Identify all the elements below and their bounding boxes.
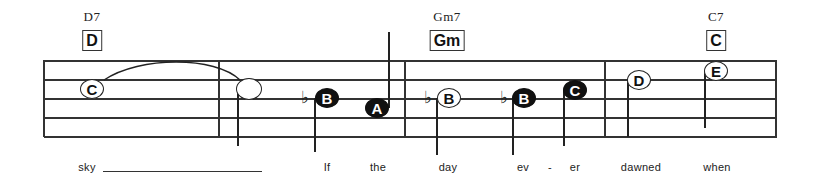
flat-icon: ♭ xyxy=(500,87,508,107)
music-score: D7 D Gm7 Gm C7 C ♭ ♭ ♭ C B A B B C D xyxy=(0,0,817,190)
note-stem xyxy=(563,90,565,146)
note-stem xyxy=(627,80,629,137)
note-stem xyxy=(237,89,239,146)
lyric-word: sky xyxy=(78,161,95,173)
flat-icon: ♭ xyxy=(424,87,432,107)
note-stem xyxy=(314,98,316,152)
note-b-flat: B xyxy=(512,88,536,108)
lyric-word: day xyxy=(439,161,458,173)
lyric-word: dawned xyxy=(621,161,661,173)
note-tied xyxy=(236,78,262,100)
flat-icon: ♭ xyxy=(301,87,309,107)
lyric-extender-line xyxy=(103,171,262,172)
lyric-word: the xyxy=(370,161,386,173)
note-c: C xyxy=(80,79,104,99)
lyric-word: when xyxy=(703,161,731,173)
lyric-word: If xyxy=(324,161,331,173)
note-stem xyxy=(436,98,438,155)
note-a: A xyxy=(365,98,389,118)
lyric-word: er xyxy=(570,161,580,173)
lyric-word: ev xyxy=(517,161,529,173)
tie-arc xyxy=(0,0,817,190)
note-stem xyxy=(704,71,706,128)
lyric-hyphen: - xyxy=(548,161,552,173)
note-stem xyxy=(512,98,514,155)
note-d: D xyxy=(627,70,651,90)
note-stem xyxy=(388,32,390,108)
note-c: C xyxy=(563,80,587,100)
note-b-flat: B xyxy=(437,88,461,108)
note-b-flat: B xyxy=(315,88,339,108)
note-e: E xyxy=(704,61,728,81)
